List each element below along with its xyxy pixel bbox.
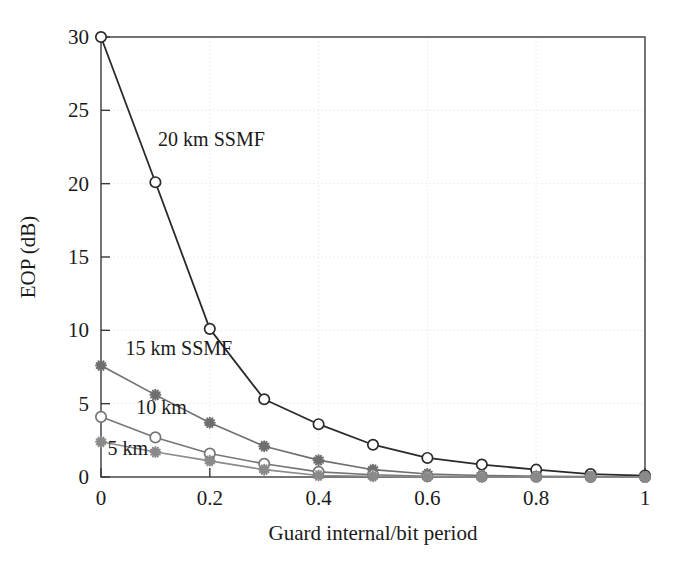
marker-20-km-ssmf: [422, 453, 432, 463]
x-axis-tick-label: 0.2: [197, 486, 223, 510]
marker-20-km-ssmf: [96, 32, 106, 42]
y-axis-tick-label: 20: [68, 172, 89, 196]
figure-background: [0, 0, 682, 567]
y-axis-tick-label: 15: [68, 245, 89, 269]
marker-20-km-ssmf: [259, 394, 269, 404]
series-annotation-15-km-ssmf: 15 km SSMF: [125, 337, 232, 359]
x-axis-tick-label: 1: [640, 486, 651, 510]
marker-10-km: [150, 432, 160, 442]
y-axis-tick-label: 5: [79, 392, 90, 416]
marker-20-km-ssmf: [477, 459, 487, 469]
marker-20-km-ssmf: [150, 177, 160, 187]
y-axis-tick-label: 10: [68, 318, 89, 342]
y-axis-tick-label: 30: [68, 25, 89, 49]
y-axis-tick-label: 25: [68, 98, 89, 122]
y-axis-tick-label: 0: [79, 465, 90, 489]
x-axis-tick-label: 0.6: [414, 486, 440, 510]
marker-20-km-ssmf: [313, 419, 323, 429]
x-axis-tick-label: 0.4: [305, 486, 332, 510]
eop-vs-guard-interval-line-chart: 00.20.40.60.81 051015202530 Guard intern…: [0, 0, 682, 567]
marker-20-km-ssmf: [368, 440, 378, 450]
marker-20-km-ssmf: [205, 324, 215, 334]
series-annotation-10-km: 10 km: [136, 396, 187, 418]
chart-figure: 00.20.40.60.81 051015202530 Guard intern…: [0, 0, 682, 567]
y-axis-title: EOP (dB): [16, 216, 40, 299]
series-annotation-5-km: 5 km: [108, 437, 149, 459]
series-annotation-20-km-ssmf: 20 km SSMF: [158, 128, 265, 150]
x-axis-tick-label: 0.8: [523, 486, 549, 510]
x-axis-title: Guard internal/bit period: [269, 521, 478, 545]
x-axis-tick-label: 0: [96, 486, 107, 510]
marker-10-km: [96, 412, 106, 422]
